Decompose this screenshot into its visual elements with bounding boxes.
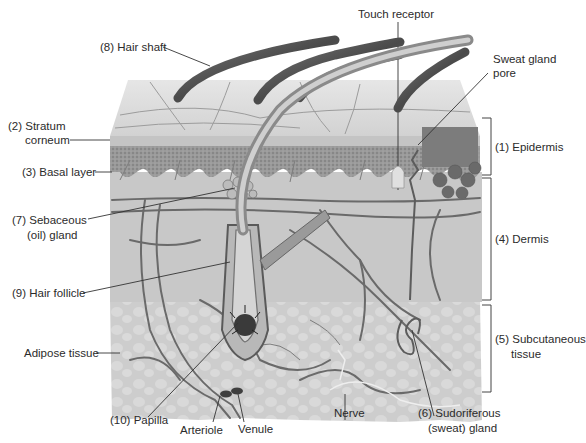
label-sebaceous-gland-1: (7) Sebaceous: [12, 213, 87, 227]
label-adipose-tissue: Adipose tissue: [24, 346, 99, 360]
label-touch-receptor: Touch receptor: [358, 7, 434, 21]
label-hair-shaft: (8) Hair shaft: [100, 40, 166, 54]
label-hair-follicle: (9) Hair follicle: [12, 286, 86, 300]
label-sweat-gland-pore-1: Sweat gland: [493, 52, 556, 66]
label-arteriole: Arteriole: [180, 423, 223, 437]
layer-brackets: [482, 118, 491, 392]
label-papilla: (10) Papilla: [110, 413, 168, 427]
label-nerve: Nerve: [334, 406, 365, 420]
label-stratum-corneum-2: corneum: [25, 133, 70, 147]
label-venule: Venule: [238, 422, 273, 436]
label-basal-layer: (3) Basal layer: [22, 165, 96, 179]
label-epidermis: (1) Epidermis: [495, 140, 563, 154]
label-sweat-gland-pore-2: pore: [493, 66, 516, 80]
label-stratum-corneum-1: (2) Stratum: [8, 119, 66, 133]
label-sudoriferous-gland-2: (sweat) gland: [428, 421, 497, 435]
label-sebaceous-gland-2: (oil) gland: [27, 228, 78, 242]
label-sudoriferous-gland-1: (6) Sudoriferous: [418, 406, 500, 420]
label-subcutaneous-2: tissue: [511, 347, 541, 361]
label-subcutaneous-1: (5) Subcutaneous: [495, 332, 586, 346]
label-dermis: (4) Dermis: [495, 232, 549, 246]
